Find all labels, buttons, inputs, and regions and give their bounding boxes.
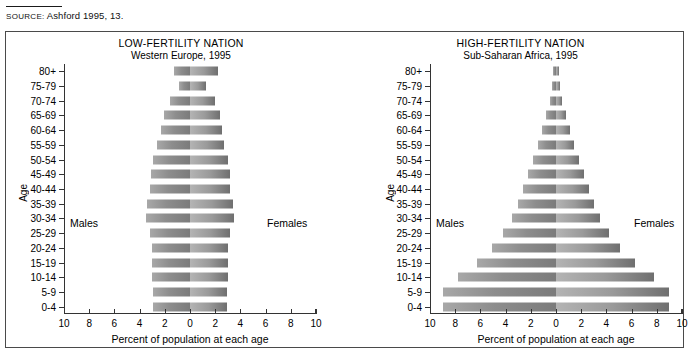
y-axis-tick-label: 15-19 <box>396 257 422 268</box>
bar-females <box>556 229 609 238</box>
y-axis-tick-label: 45-49 <box>30 169 56 180</box>
bar-females <box>556 214 600 223</box>
bar-females <box>556 273 654 282</box>
bar-females <box>190 96 215 105</box>
pyramid-row: 20-24 <box>430 240 682 255</box>
bar-males <box>147 199 190 208</box>
y-axis-tick-label: 80+ <box>405 66 422 77</box>
bar-males <box>443 302 556 311</box>
y-axis-tick-label: 45-49 <box>396 169 422 180</box>
x-axis-tick <box>657 309 658 314</box>
pyramid-row: 20-24 <box>64 240 316 255</box>
x-axis-tick <box>506 309 507 314</box>
x-axis-tick-label: 6 <box>478 318 484 329</box>
bar-females <box>556 67 559 76</box>
y-axis-tick-label: 5-9 <box>408 286 422 297</box>
pyramid-row: 55-59 <box>430 138 682 153</box>
y-axis-tick-label: 60-64 <box>396 125 422 136</box>
y-axis-tick-label: 25-29 <box>30 228 56 239</box>
bar-males <box>152 273 190 282</box>
y-axis-tick-label: 10-14 <box>30 272 56 283</box>
y-axis-tick-label: 25-29 <box>396 228 422 239</box>
x-axis-tick <box>291 309 292 314</box>
y-axis-tick-label: 55-59 <box>30 139 56 150</box>
x-axis-tick-label: 6 <box>263 318 269 329</box>
x-axis-tick <box>430 309 431 314</box>
figure-frame: LOW-FERTILITY NATION Western Europe, 199… <box>5 31 684 348</box>
x-axis-tick-label: 8 <box>452 318 458 329</box>
bar-females <box>556 96 562 105</box>
x-axis-tick <box>266 309 267 314</box>
pyramid-row: 50-54 <box>430 152 682 167</box>
x-axis-tick <box>531 309 532 314</box>
y-axis-tick-label: 20-24 <box>30 242 56 253</box>
x-axis-tick <box>581 309 582 314</box>
bar-males <box>512 214 556 223</box>
y-axis-tick-label: 70-74 <box>396 95 422 106</box>
bar-females <box>556 258 635 267</box>
pyramid-row: 35-39 <box>430 196 682 211</box>
bar-males <box>538 140 556 149</box>
y-axis-line-left <box>64 64 65 314</box>
x-axis-tick-label: 8 <box>288 318 294 329</box>
bar-females <box>556 82 560 91</box>
x-axis-tick <box>114 309 115 314</box>
bar-males <box>518 199 556 208</box>
y-axis-tick-label: 30-34 <box>30 213 56 224</box>
pyramid-row: 40-44 <box>64 182 316 197</box>
y-axis-tick-label: 15-19 <box>30 257 56 268</box>
bar-females <box>190 199 233 208</box>
y-axis-tick-label: 80+ <box>39 66 56 77</box>
x-axis-tick-label: 6 <box>112 318 118 329</box>
x-axis-tick <box>606 309 607 314</box>
bar-males <box>151 170 190 179</box>
bar-females <box>190 82 206 91</box>
x-axis-tick-label: 2 <box>578 318 584 329</box>
bar-females <box>556 155 579 164</box>
pyramid-row: 75-79 <box>64 79 316 94</box>
pyramid-row: 35-39 <box>64 196 316 211</box>
bar-females <box>190 184 230 193</box>
y-axis-tick-label: 35-39 <box>396 198 422 209</box>
source-text: Ashford 1995, 13. <box>47 10 124 21</box>
chart-title-line1: LOW-FERTILITY NATION <box>6 38 356 50</box>
y-axis-tick-label: 70-74 <box>30 95 56 106</box>
y-axis-line-right <box>430 64 431 314</box>
y-axis-tick-label: 0-4 <box>42 301 56 312</box>
pyramid-row: 30-34 <box>430 211 682 226</box>
bar-males <box>503 229 556 238</box>
bar-females <box>556 184 589 193</box>
y-axis-tick-label: 10-14 <box>396 272 422 283</box>
bar-males <box>150 184 190 193</box>
source-label: SOURCE: <box>6 12 45 21</box>
bar-females <box>556 243 620 252</box>
bar-females <box>556 170 584 179</box>
x-axis-tick <box>632 309 633 314</box>
pyramid-row: 65-69 <box>430 108 682 123</box>
bar-males <box>443 287 556 296</box>
x-axis-tick <box>89 309 90 314</box>
pyramid-row: 60-64 <box>64 123 316 138</box>
pyramid-row: 45-49 <box>64 167 316 182</box>
x-axis-tick-label: 4 <box>503 318 509 329</box>
bar-males <box>179 82 190 91</box>
x-axis-tick <box>316 309 317 314</box>
pyramid-row: 25-29 <box>64 226 316 241</box>
bar-males <box>477 258 556 267</box>
pyramid-row: 10-14 <box>430 270 682 285</box>
bar-males <box>152 243 190 252</box>
bar-females <box>556 199 594 208</box>
y-axis-tick-label: 5-9 <box>42 286 56 297</box>
bar-males <box>164 111 190 120</box>
bar-females <box>556 140 574 149</box>
chart-subtitle-line2: Western Europe, 1995 <box>6 50 356 62</box>
bar-males <box>161 126 190 135</box>
x-axis-title-right: Percent of population at each age <box>430 333 682 345</box>
bar-females <box>190 229 230 238</box>
bar-females <box>190 155 228 164</box>
bar-males <box>542 126 556 135</box>
bar-males <box>153 302 190 311</box>
bar-males <box>492 243 556 252</box>
y-axis-tick-label: 20-24 <box>396 242 422 253</box>
bar-males <box>546 111 556 120</box>
